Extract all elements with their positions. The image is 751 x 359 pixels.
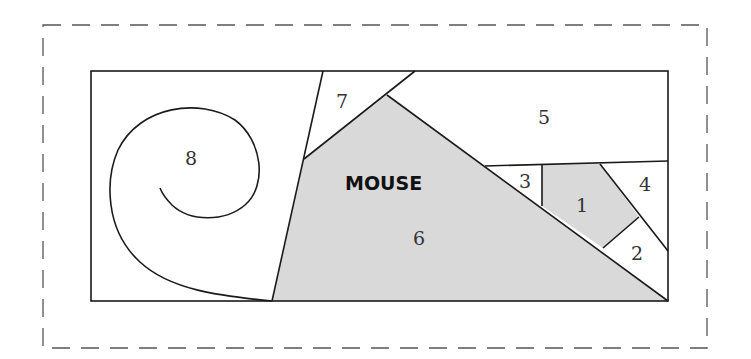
region-7-label: 7	[336, 90, 348, 112]
region-5-label: 5	[538, 106, 550, 128]
diagram-title: MOUSE	[345, 172, 422, 194]
region-8-label: 8	[185, 147, 197, 169]
region-4-label: 4	[639, 173, 651, 195]
region-6-label: 6	[413, 227, 425, 249]
region-2-label: 2	[631, 242, 643, 264]
mouse-pattern-diagram: 8 7 5 3 4 1 2 6 MOUSE	[0, 0, 751, 359]
region-3-label: 3	[519, 170, 531, 192]
region-1-label: 1	[576, 194, 588, 216]
spiral-curve	[110, 108, 272, 301]
